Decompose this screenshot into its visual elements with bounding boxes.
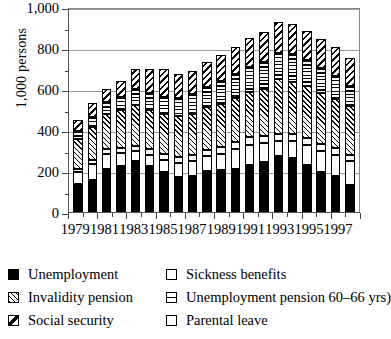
bar-segment	[231, 47, 240, 74]
bar-segment	[274, 141, 283, 156]
bar-segment	[231, 169, 240, 212]
bar-group	[300, 9, 314, 212]
stacked-bar[interactable]	[231, 47, 240, 212]
stacked-bar[interactable]	[345, 58, 354, 212]
bar-group	[142, 9, 156, 212]
bar-group	[85, 9, 99, 212]
x-axis-tick	[83, 213, 84, 217]
bar-segment	[231, 74, 240, 99]
bar-segment	[145, 166, 154, 212]
x-axis-tick-label: 1991	[236, 221, 265, 238]
bar-segment	[316, 172, 325, 212]
bar-group	[114, 9, 128, 212]
bar-segment	[88, 180, 97, 212]
bar-segment	[302, 145, 311, 166]
x-axis-tick	[302, 213, 303, 219]
bar-segment	[288, 82, 297, 134]
legend-label: Social security	[28, 313, 114, 328]
stacked-bar[interactable]	[331, 47, 340, 212]
bar-segment	[345, 161, 354, 186]
legend-item[interactable]: Parental leave	[166, 309, 380, 332]
stacked-bar[interactable]	[159, 69, 168, 212]
bar-segment	[316, 151, 325, 173]
legend-label: Unemployment	[28, 267, 118, 282]
bar-group	[100, 9, 114, 212]
x-axis-tick	[316, 213, 317, 217]
bar-segment	[131, 89, 140, 104]
stacked-bar[interactable]	[202, 62, 211, 212]
stacked-bar[interactable]	[102, 89, 111, 212]
bar-segment	[202, 156, 211, 171]
bar-segment	[174, 116, 183, 157]
stacked-bar[interactable]	[73, 120, 82, 212]
stacked-bar[interactable]	[188, 71, 197, 212]
legend-item[interactable]: Unemployment pension 60–66 yrs)	[166, 286, 380, 309]
bar-segment	[259, 143, 268, 161]
stacked-bar[interactable]	[288, 24, 297, 212]
bar-segment	[159, 160, 168, 172]
bar-segment	[88, 164, 97, 180]
x-axis-tick	[272, 213, 273, 219]
legend-item[interactable]: Invalidity pension	[8, 286, 168, 309]
x-axis-tick-label: 1985	[148, 221, 177, 238]
bar-segment	[116, 81, 125, 96]
bar-segment	[345, 86, 354, 107]
bar-segment	[259, 32, 268, 62]
bar-segment	[231, 142, 240, 149]
bar-segment	[302, 60, 311, 87]
bar-segment	[174, 163, 183, 177]
bar-group	[343, 9, 357, 212]
x-axis-tick	[243, 213, 244, 219]
stacked-bar[interactable]	[116, 81, 125, 212]
bar-segment	[302, 86, 311, 137]
legend-label: Sickness benefits	[186, 267, 286, 282]
y-axis-tick-label: 0	[52, 205, 59, 222]
bar-segment	[288, 24, 297, 54]
x-axis-tick-label: 1997	[324, 221, 353, 238]
x-axis-tick	[287, 213, 288, 217]
stacked-bar[interactable]	[174, 74, 183, 212]
bar-segment	[116, 166, 125, 212]
stacked-bar[interactable]	[145, 69, 154, 212]
bar-segment	[73, 120, 82, 131]
bar-segment	[316, 93, 325, 144]
bar-segment	[288, 158, 297, 212]
bar-segment	[131, 161, 140, 212]
white-open-swatch-icon	[166, 269, 177, 280]
bar-segment	[216, 170, 225, 212]
stacked-bar[interactable]	[316, 39, 325, 212]
bar-group	[71, 9, 85, 212]
legend-item[interactable]: Social security	[8, 309, 168, 332]
bar-segment	[145, 155, 154, 166]
y-axis-tick	[62, 50, 69, 51]
stacked-bar[interactable]	[131, 69, 140, 212]
bar-segment	[288, 54, 297, 82]
stacked-bar[interactable]	[302, 31, 311, 212]
bar-segment	[245, 137, 254, 144]
bar-segment	[174, 177, 183, 212]
stacked-bar[interactable]	[88, 103, 97, 212]
chart-legend: UnemploymentInvalidity pensionSocial sec…	[6, 263, 377, 335]
legend-item[interactable]: Unemployment	[8, 263, 168, 286]
stacked-bar[interactable]	[245, 38, 254, 212]
legend-item[interactable]: Sickness benefits	[166, 263, 380, 286]
x-axis-tick	[331, 213, 332, 219]
bar-segment	[302, 138, 311, 145]
bar-segment	[202, 107, 211, 149]
legend-column-right: Sickness benefitsUnemployment pension 60…	[166, 263, 380, 332]
x-axis-tick	[229, 213, 230, 217]
stacked-bar[interactable]	[216, 55, 225, 212]
bar-series-group	[69, 9, 359, 212]
bar-segment	[274, 53, 283, 80]
bar-segment	[202, 171, 211, 212]
bar-segment	[259, 136, 268, 143]
x-axis-tick-label: 1989	[207, 221, 236, 238]
bar-segment	[331, 76, 340, 99]
bar-group	[243, 9, 257, 212]
bar-group	[285, 9, 299, 212]
stacked-bar[interactable]	[274, 22, 283, 212]
x-axis-tick	[258, 213, 259, 217]
legend-label: Invalidity pension	[28, 290, 133, 305]
x-axis-tick	[68, 213, 69, 219]
stacked-bar[interactable]	[259, 32, 268, 212]
